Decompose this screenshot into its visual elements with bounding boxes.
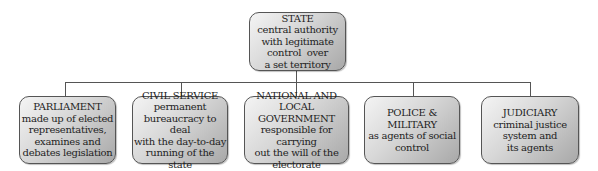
node-line: bureaucracy to deal [133, 113, 227, 136]
node-line: its agents [507, 142, 553, 154]
node-state: STATE central authority with legitimate … [249, 12, 346, 71]
node-line: a set territory [264, 59, 330, 71]
node-line: criminal justice [493, 119, 567, 131]
connector-parliament [65, 82, 66, 96]
node-line: central authority [257, 24, 338, 36]
node-title: PARLIAMENT [33, 101, 101, 113]
node-police-military: POLICE & MILITARY as agents of social co… [364, 96, 460, 164]
node-title: STATE [281, 13, 313, 25]
node-line: control [395, 142, 429, 154]
connector-horizontal-bus [65, 82, 531, 83]
node-national-local-government: NATIONAL AND LOCAL GOVERNMENT responsibl… [244, 96, 349, 164]
node-line: electorate [272, 159, 320, 171]
node-line: with legitimate [261, 36, 333, 48]
node-line: system and [503, 130, 557, 142]
node-line: running of the state [133, 147, 227, 170]
node-line: examines and [34, 136, 100, 148]
node-line: made up of elected [22, 113, 113, 125]
node-title-2: LOCAL GOVERNMENT [245, 101, 348, 124]
node-line: representatives, [29, 124, 107, 136]
node-line: permanent [154, 101, 207, 113]
node-title: POLICE & [387, 107, 437, 119]
connector-police-military [413, 82, 414, 96]
node-title-2: MILITARY [387, 119, 437, 131]
node-line: debates legislation [23, 147, 113, 159]
node-civil-service: CIVIL SERVICE permanent bureaucracy to d… [132, 96, 228, 164]
node-judiciary: JUDICIARY criminal justice system and it… [481, 96, 579, 164]
node-line: responsible for carrying [245, 124, 348, 147]
node-title: CIVIL SERVICE [142, 90, 218, 102]
node-title: NATIONAL AND [256, 90, 336, 102]
node-line: with the day-to-day [134, 136, 226, 148]
node-title: JUDICIARY [503, 107, 557, 119]
connector-judiciary [530, 82, 531, 96]
node-line: control over [267, 47, 328, 59]
node-line: out the will of the [254, 147, 338, 159]
node-line: as agents of social [368, 130, 456, 142]
node-parliament: PARLIAMENT made up of elected representa… [19, 96, 116, 164]
